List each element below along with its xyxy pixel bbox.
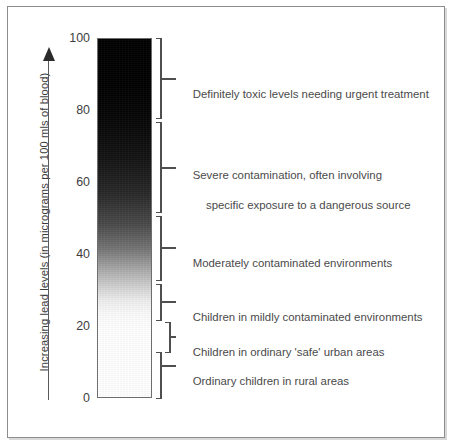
annotation-band-1: Definitely toxic levels needing urgent t… <box>180 72 429 117</box>
annotation-band-6: Ordinary children in rural areas <box>180 359 349 404</box>
tick-label-40: 40 <box>56 247 90 261</box>
lead-level-gradient-bar <box>97 38 152 398</box>
annotation-band-3: Moderately contaminated environments <box>180 241 392 286</box>
gradient-grain-texture <box>98 39 151 397</box>
annotation-band-2: Severe contamination, often involving sp… <box>180 153 411 243</box>
annotation-band-6-line1: Ordinary children in rural areas <box>193 375 349 387</box>
tick-label-100: 100 <box>56 31 90 45</box>
up-arrow-icon <box>43 47 55 61</box>
axis-arrow-line <box>48 58 49 400</box>
tick-label-0: 0 <box>56 391 90 405</box>
tick-label-60: 60 <box>56 175 90 189</box>
annotation-band-1-line1: Definitely toxic levels needing urgent t… <box>193 88 429 100</box>
y-axis-ticks: 100 80 60 40 20 0 <box>56 0 90 446</box>
annotation-band-2-line2: specific exposure to a dangerous source <box>180 198 411 213</box>
lead-levels-figure: Increasing lead levels (in micrograms pe… <box>0 0 453 446</box>
annotation-band-4-line1: Children in mildly contaminated environm… <box>193 311 423 323</box>
annotation-band-5-line1: Children in ordinary 'safe' urban areas <box>193 346 385 358</box>
annotation-band-2-line1: Severe contamination, often involving <box>193 169 382 181</box>
tick-label-80: 80 <box>56 103 90 117</box>
annotation-band-3-line1: Moderately contaminated environments <box>193 257 392 269</box>
tick-label-20: 20 <box>56 319 90 333</box>
